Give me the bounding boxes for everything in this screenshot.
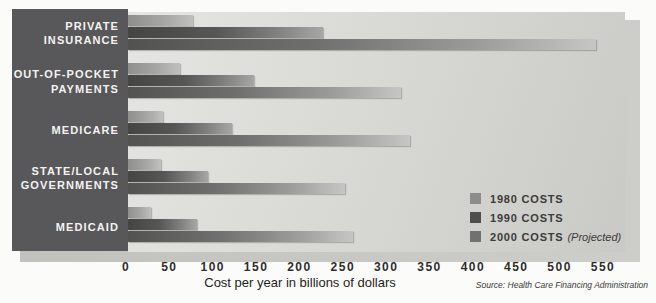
bar-group-out-of-pocket bbox=[128, 63, 625, 98]
x-tick: 450 bbox=[504, 260, 529, 274]
x-tick: 100 bbox=[200, 260, 225, 274]
x-axis-ticks: 0 50 100 150 200 250 300 350 400 450 500… bbox=[126, 260, 603, 274]
bar-private-insurance-1980 bbox=[128, 15, 193, 26]
legend: 1980 COSTS 1990 COSTS 2000 COSTS (Projec… bbox=[470, 189, 621, 246]
legend-label: 2000 COSTS bbox=[490, 231, 563, 243]
bar-out-of-pocket-2000 bbox=[128, 87, 401, 98]
source-credit: Source: Health Care Financing Administra… bbox=[476, 280, 648, 290]
x-tick: 50 bbox=[161, 260, 177, 274]
bar-group-private-insurance bbox=[128, 15, 625, 50]
bar-medicare-1980 bbox=[128, 111, 163, 122]
category-label-line: STATE/LOCAL bbox=[32, 164, 119, 178]
x-tick: 550 bbox=[591, 260, 616, 274]
category-label-line: MEDICAID bbox=[56, 220, 119, 234]
legend-item-1980: 1980 COSTS bbox=[470, 189, 621, 208]
legend-swatch-1990 bbox=[470, 212, 481, 223]
legend-swatch-1980 bbox=[470, 193, 481, 204]
category-label-line: MEDICARE bbox=[52, 123, 119, 137]
x-tick: 0 bbox=[122, 260, 130, 274]
legend-suffix: (Projected) bbox=[567, 231, 621, 243]
category-label-out-of-pocket: OUT-OF-POCKET PAYMENTS bbox=[12, 57, 128, 105]
bar-private-insurance-1990 bbox=[128, 27, 323, 38]
chart-canvas: PRIVATE INSURANCE OUT-OF-POCKET PAYMENTS… bbox=[0, 0, 656, 303]
legend-item-1990: 1990 COSTS bbox=[470, 208, 621, 227]
bar-medicare-1990 bbox=[128, 123, 232, 134]
bar-medicare-2000 bbox=[128, 135, 410, 146]
x-tick: 300 bbox=[374, 260, 399, 274]
legend-label: 1990 COSTS bbox=[490, 212, 563, 224]
bar-state-local-2000 bbox=[128, 183, 345, 194]
category-label-medicare: MEDICARE bbox=[12, 106, 128, 154]
legend-label: 1980 COSTS bbox=[490, 193, 563, 205]
category-label-medicaid: MEDICAID bbox=[12, 203, 128, 251]
x-axis-title: Cost per year in billions of dollars bbox=[170, 275, 430, 290]
category-label-line: PAYMENTS bbox=[51, 82, 119, 96]
legend-item-2000: 2000 COSTS (Projected) bbox=[470, 227, 621, 246]
category-sidebar: PRIVATE INSURANCE OUT-OF-POCKET PAYMENTS… bbox=[12, 9, 128, 251]
x-tick: 150 bbox=[244, 260, 269, 274]
x-tick: 400 bbox=[461, 260, 486, 274]
bar-medicaid-1980 bbox=[128, 207, 151, 218]
category-label-line: INSURANCE bbox=[44, 33, 119, 47]
bar-medicaid-1990 bbox=[128, 219, 197, 230]
category-label-line: OUT-OF-POCKET bbox=[14, 67, 119, 81]
bar-state-local-1990 bbox=[128, 171, 208, 182]
category-label-line: GOVERNMENTS bbox=[21, 178, 119, 192]
x-tick: 250 bbox=[331, 260, 356, 274]
x-tick: 350 bbox=[417, 260, 442, 274]
bar-private-insurance-2000 bbox=[128, 39, 596, 50]
bar-out-of-pocket-1990 bbox=[128, 75, 254, 86]
bar-state-local-1980 bbox=[128, 159, 161, 170]
bar-out-of-pocket-1980 bbox=[128, 63, 180, 74]
category-label-private-insurance: PRIVATE INSURANCE bbox=[12, 9, 128, 57]
bar-medicaid-2000 bbox=[128, 231, 353, 242]
category-label-line: PRIVATE bbox=[65, 19, 119, 33]
x-tick: 200 bbox=[287, 260, 312, 274]
legend-swatch-2000 bbox=[470, 231, 481, 242]
bar-group-medicare bbox=[128, 111, 625, 146]
category-label-state-local: STATE/LOCAL GOVERNMENTS bbox=[12, 154, 128, 202]
x-tick: 500 bbox=[547, 260, 572, 274]
